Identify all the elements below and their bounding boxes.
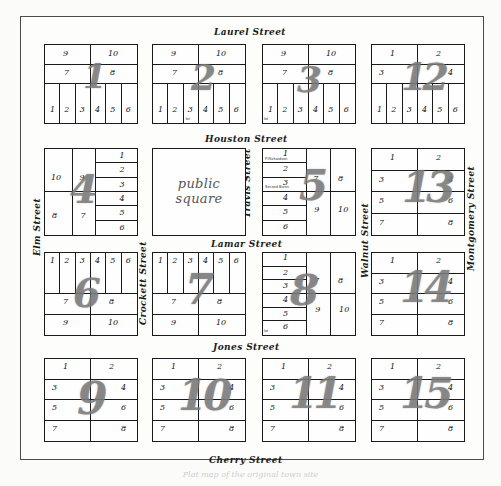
lot[interactable]: 8 — [45, 192, 73, 235]
lot[interactable]: 1 — [96, 149, 137, 163]
lot[interactable]: 8 — [91, 65, 137, 85]
block-1[interactable]: 9 10 7 8 1 2 3 4 5 6 1 — [44, 44, 138, 124]
lot[interactable]: 2 — [418, 359, 464, 380]
lot[interactable]: 8 — [309, 421, 355, 442]
lot[interactable]: 7 — [307, 253, 331, 294]
lot[interactable]: 7 — [372, 214, 418, 236]
lot[interactable]: 6 — [340, 84, 355, 123]
lot[interactable]: 6 — [96, 221, 137, 235]
lot[interactable]: 1 — [263, 253, 307, 267]
lot[interactable]: 7 — [307, 149, 331, 192]
lot[interactable]: 9 — [45, 315, 91, 336]
lot[interactable]: 10 — [199, 315, 245, 336]
block-4[interactable]: 10 9 8 7 1 2 3 4 5 6 4 — [44, 148, 138, 236]
lot[interactable]: 5 — [106, 253, 121, 294]
lot[interactable]: 5 — [263, 308, 307, 322]
lot[interactable]: 3 — [153, 380, 199, 401]
lot[interactable]: 4 — [309, 84, 324, 123]
lot[interactable]: 8 — [199, 421, 245, 442]
lot[interactable]: 6 — [122, 84, 137, 123]
lot[interactable]: 6 — [199, 400, 245, 421]
public-square[interactable]: public square — [152, 148, 246, 236]
lot[interactable]: 7 — [73, 192, 96, 235]
lot[interactable]: 6 — [91, 400, 137, 421]
lot[interactable]: 6 — [449, 84, 464, 123]
lot[interactable]: 3 — [294, 84, 309, 123]
lot[interactable]: 7 — [45, 421, 91, 442]
lot[interactable]: 1 — [263, 359, 309, 380]
lot[interactable]: 1 — [153, 359, 199, 380]
lot[interactable]: 9 — [153, 315, 199, 336]
block-15[interactable]: 1 2 3 4 5 6 7 8 15 — [371, 358, 465, 442]
lot[interactable]: 5 — [153, 400, 199, 421]
block-9[interactable]: 1 2 3 4 5 6 7 8 9 — [44, 358, 138, 442]
lot[interactable]: 2 — [60, 253, 75, 294]
lot[interactable]: 2 — [263, 163, 307, 177]
lot[interactable]: 9 — [153, 45, 199, 65]
lot[interactable]: 3 — [372, 171, 418, 193]
lot[interactable]: 6lot — [263, 321, 307, 335]
lot[interactable]: 4 — [199, 380, 245, 401]
lot[interactable]: 6 — [309, 400, 355, 421]
lot[interactable]: 10 — [91, 45, 137, 65]
lot[interactable]: 5 — [433, 84, 448, 123]
lot[interactable]: 10 — [331, 294, 355, 335]
lot[interactable]: 8 — [91, 294, 137, 315]
lot[interactable]: 4 — [199, 253, 214, 294]
lot[interactable]: 7 — [153, 421, 199, 442]
lot[interactable]: 3 — [372, 65, 418, 85]
lot[interactable]: 2 — [263, 267, 307, 281]
block-5[interactable]: 1P.Richardson 2 3Second Burns 4 5 6 7 8 … — [262, 148, 356, 236]
lot[interactable]: 1 — [45, 359, 91, 380]
lot[interactable]: 6 — [230, 253, 245, 294]
lot[interactable]: 5 — [214, 84, 229, 123]
lot[interactable]: 2 — [91, 359, 137, 380]
lot[interactable]: 10 — [331, 192, 355, 235]
block-2[interactable]: 9 10 7 8 1 2 3lot 4 5 6 2 — [152, 44, 246, 124]
lot[interactable]: 10 — [91, 315, 137, 336]
block-12[interactable]: 1 2 3 4 1 2 3 4 5 6 12 — [371, 44, 465, 124]
lot[interactable]: 5 — [96, 206, 137, 220]
lot[interactable]: 3 — [76, 84, 91, 123]
lot[interactable]: 8 — [199, 294, 245, 315]
lot[interactable]: 3lot — [184, 84, 199, 123]
lot[interactable]: 3 — [403, 84, 418, 123]
lot[interactable]: 3 — [76, 253, 91, 294]
lot[interactable]: 9 — [307, 294, 331, 335]
lot[interactable]: 2 — [168, 84, 183, 123]
lot[interactable]: 4 — [199, 84, 214, 123]
lot[interactable]: 1P.Richardson — [263, 149, 307, 163]
lot[interactable]: 4 — [263, 294, 307, 308]
lot[interactable]: 4 — [263, 192, 307, 206]
lot[interactable]: 6 — [122, 253, 137, 294]
block-7[interactable]: 1 2 3 4 5 6 7 8 9 10 7 — [152, 252, 246, 336]
lot[interactable]: 4 — [91, 380, 137, 401]
lot[interactable]: 2 — [168, 253, 183, 294]
lot[interactable]: 7 — [372, 315, 418, 336]
lot[interactable]: 2 — [60, 84, 75, 123]
lot[interactable]: 7 — [153, 294, 199, 315]
lot[interactable]: 3 — [372, 274, 418, 295]
lot[interactable]: 8 — [331, 253, 355, 294]
lot[interactable]: 5 — [324, 84, 339, 123]
lot[interactable]: 8 — [309, 65, 355, 85]
lot[interactable]: 3 — [96, 178, 137, 192]
lot[interactable]: 3 — [263, 380, 309, 401]
lot[interactable]: 8 — [199, 65, 245, 85]
lot[interactable]: 1 — [372, 84, 387, 123]
lot[interactable]: 6 — [263, 221, 307, 235]
lot[interactable]: 8 — [418, 315, 464, 336]
block-3[interactable]: 9 10 7 8 1lot 2 3 4 5 6 3 — [262, 44, 356, 124]
lot[interactable]: 4 — [418, 274, 464, 295]
block-6[interactable]: 1 2 3 4 5 6 7 8 9 10 6 — [44, 252, 138, 336]
lot[interactable]: 6 — [418, 192, 464, 214]
lot[interactable]: 4 — [418, 380, 464, 401]
lot[interactable]: 4 — [418, 84, 433, 123]
lot[interactable]: 4 — [418, 171, 464, 193]
lot[interactable]: 6 — [418, 294, 464, 315]
lot[interactable]: 8 — [418, 214, 464, 236]
lot[interactable]: 1 — [153, 253, 168, 294]
block-10[interactable]: 1 2 3 4 5 6 7 8 10 — [152, 358, 246, 442]
lot[interactable]: 6 — [230, 84, 245, 123]
lot[interactable]: 7 — [372, 421, 418, 442]
